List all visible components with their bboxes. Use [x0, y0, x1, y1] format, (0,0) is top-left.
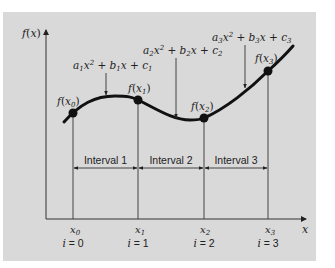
point-label-3: f(x3) [254, 52, 278, 66]
data-point-0 [69, 109, 78, 118]
x-tick-label-0: x0 [70, 224, 81, 237]
equation-label-2: a2x2 + b2x + c2 [143, 44, 223, 58]
point-label-0: f(x0) [56, 95, 80, 109]
interval-label-2: Interval 2 [149, 154, 192, 166]
equation-label-1: a1x2 + b1x + c1 [73, 59, 153, 73]
equation-label-3: a3x2 + b3x + c3 [212, 31, 292, 45]
interval-label-1: Interval 1 [84, 154, 127, 166]
point-label-2: f(x2) [190, 100, 214, 114]
data-point-3 [264, 67, 273, 76]
point-label-1: f(x1) [127, 82, 151, 96]
y-axis-label: f(x) [21, 27, 41, 40]
x-tick-label-2: x2 [200, 224, 211, 237]
x-tick-label-1: x1 [135, 224, 145, 237]
interval-label-3: Interval 3 [214, 154, 257, 166]
index-label-3: i = 3 [257, 237, 278, 249]
quadratic-spline-diagram: f(x) x f(x0) f(x1) f(x2) f(x3) a1x2 + b1… [0, 0, 335, 268]
data-point-2 [200, 114, 209, 123]
index-label-0: i = 0 [62, 237, 83, 249]
x-axis-label: x [302, 223, 309, 236]
x-tick-label-3: x3 [265, 224, 276, 237]
index-label-1: i = 1 [127, 237, 148, 249]
index-label-2: i = 2 [193, 237, 214, 249]
data-point-1 [134, 96, 143, 105]
